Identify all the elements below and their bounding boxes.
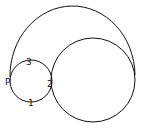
circles-diagram: P 3 2 1 — [0, 0, 145, 139]
label-2: 2 — [47, 79, 53, 89]
label-p: P — [5, 77, 11, 87]
label-3: 3 — [26, 57, 32, 67]
large-circle — [51, 38, 135, 122]
label-1: 1 — [28, 98, 34, 108]
